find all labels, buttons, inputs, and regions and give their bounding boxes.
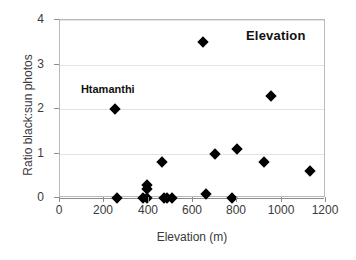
gridline-y xyxy=(60,154,324,155)
x-tick-label: 0 xyxy=(36,204,82,216)
x-tick-mark xyxy=(103,197,104,202)
data-point-marker xyxy=(156,157,167,168)
plot-area xyxy=(59,19,325,197)
data-point-annotation: Htamanthi xyxy=(81,83,135,95)
data-point-marker xyxy=(112,192,123,203)
y-tick-label: 2 xyxy=(0,102,44,114)
y-tick-mark xyxy=(54,153,59,154)
gridline-y xyxy=(60,65,324,66)
x-tick-label: 200 xyxy=(80,204,126,216)
y-tick-mark xyxy=(54,64,59,65)
gridline-y xyxy=(60,20,324,21)
chart-title: Elevation xyxy=(246,28,306,43)
x-tick-label: 400 xyxy=(125,204,171,216)
data-point-marker xyxy=(209,148,220,159)
y-tick-label: 4 xyxy=(0,13,44,25)
y-axis-title: Ratio black:sun photos xyxy=(21,25,35,205)
x-tick-mark xyxy=(325,197,326,202)
y-tick-mark xyxy=(54,19,59,20)
x-axis-title: Elevation (m) xyxy=(59,230,325,244)
data-point-marker xyxy=(110,103,121,114)
gridline-y xyxy=(60,109,324,110)
data-point-marker xyxy=(265,90,276,101)
data-point-marker xyxy=(232,143,243,154)
data-point-marker xyxy=(197,37,208,48)
x-tick-label: 1000 xyxy=(258,204,304,216)
data-point-marker xyxy=(305,166,316,177)
x-tick-mark xyxy=(59,197,60,202)
x-tick-mark xyxy=(281,197,282,202)
x-tick-label: 800 xyxy=(213,204,259,216)
x-tick-label: 1200 xyxy=(302,204,348,216)
y-tick-label: 0 xyxy=(0,191,44,203)
x-tick-mark xyxy=(236,197,237,202)
y-tick-mark xyxy=(54,108,59,109)
x-tick-label: 600 xyxy=(169,204,215,216)
y-tick-label: 3 xyxy=(0,58,44,70)
x-tick-mark xyxy=(192,197,193,202)
data-point-marker xyxy=(258,157,269,168)
scatter-chart-figure: Ratio black:sun photos Elevation (m) Ele… xyxy=(0,0,356,260)
x-tick-mark xyxy=(148,197,149,202)
y-tick-label: 1 xyxy=(0,147,44,159)
